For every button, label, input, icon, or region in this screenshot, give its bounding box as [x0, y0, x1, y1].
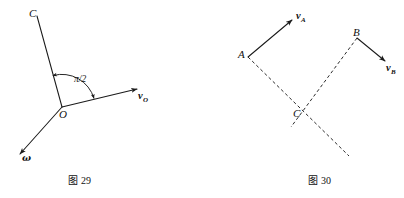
vector-label-vA: vA: [296, 11, 305, 22]
point-label-C-fig29: C: [29, 8, 36, 19]
vector-label-vA-subscript: A: [301, 16, 306, 24]
caption-figure-29-prefix: 图: [68, 175, 78, 186]
rod-segment-OC: [37, 16, 62, 107]
vector-label-vO: vO: [138, 91, 148, 102]
diagram-canvas: [0, 0, 404, 198]
vector-label-vB: vB: [386, 63, 395, 74]
vector-label-vO-subscript: O: [143, 96, 148, 104]
vector-label-vB-symbol: v: [386, 62, 391, 73]
angle-label-pi-over-2: π/2: [74, 75, 86, 85]
caption-figure-30-prefix: 图: [308, 175, 318, 186]
caption-figure-29: 图29: [68, 172, 91, 187]
vector-label-vB-subscript: B: [391, 68, 396, 76]
angular-velocity-vector-omega-arrow: [20, 107, 62, 154]
figure-30-geometry: [248, 20, 385, 156]
figure-29-geometry: [20, 16, 137, 154]
caption-figure-30: 图30: [308, 172, 331, 187]
vector-label-omega: ω: [22, 153, 31, 163]
point-label-C-fig30: C: [293, 108, 300, 119]
construction-line-from-B: [291, 38, 357, 127]
vector-label-vA-symbol: v: [296, 10, 301, 21]
point-label-O-fig29: O: [59, 109, 67, 120]
velocity-vector-vB-arrow: [357, 38, 385, 61]
velocity-vector-vO-arrow: [62, 89, 137, 107]
velocity-vector-vA-arrow: [248, 20, 292, 57]
caption-figure-30-number: 30: [321, 175, 331, 186]
caption-figure-29-number: 29: [81, 175, 91, 186]
vector-label-vO-symbol: v: [138, 90, 143, 101]
point-label-A-fig30: A: [238, 49, 245, 60]
point-label-B-fig30: B: [353, 27, 360, 38]
figure-sheet: C O π/2 vO ω A B C vA vB 图29 图30: [0, 0, 404, 198]
